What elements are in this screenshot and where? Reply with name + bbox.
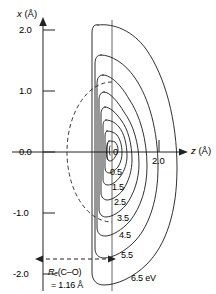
z-axis-label: z (Å) [191,146,211,156]
x-axis-arrowhead [39,17,47,26]
x-tick-label-2.0: 2.0 [19,25,32,35]
contour-label-0.5: 0.5 [110,168,122,177]
contour-label-4.5: 4.5 [119,231,131,240]
contour-label-6.5: 6.5 eV [131,274,156,283]
z-axis-arrowhead [179,148,188,155]
bond-length-annotation-line1: Re(C–O) [48,268,81,278]
x-tick-label-0.0: 0.0 [19,147,32,157]
plot-canvas [0,0,216,294]
x-axis-label-unit: (Å) [22,8,37,19]
x-axis-label: x (Å) [17,9,37,19]
contour-label-1.5: 1.5 [112,183,124,192]
contour-label-3.5: 3.5 [117,214,129,223]
x-tick-label--1.0: -1.0 [13,208,29,218]
z-tick-label-2.0: 2.0 [152,156,165,166]
x-tick-label-1.0: 1.0 [19,86,32,96]
bond-length-arrow [35,256,116,263]
x-axis-ticks [43,30,55,274]
contour-5.5 [95,55,158,258]
x-tick-label--2.0: -2.0 [13,269,29,279]
contour-figure: x (Å) z (Å) 2.0 1.0 0.0 -1.0 -2.0 2.0 0 … [0,0,216,294]
axis-arrowheads [39,17,188,156]
z-axis-label-unit: (Å) [196,145,211,156]
contour-label-2.5: 2.5 [114,198,126,207]
bond-length-annotation-line2: = 1.16 Å [51,281,83,290]
contour-label-5.5: 5.5 [121,251,133,260]
bond-length-species: (C–O) [58,267,82,277]
contour-cusp-1 [109,146,110,155]
contour-label-0: 0 [113,148,118,157]
bond-length-arrowhead-left [35,256,43,263]
